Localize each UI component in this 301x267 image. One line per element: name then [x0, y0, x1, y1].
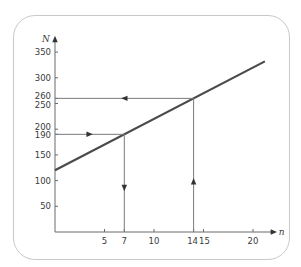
- arrow-right-icon: [86, 132, 92, 137]
- x-tick-label: 5: [102, 236, 107, 246]
- y-tick-label: 300: [35, 73, 51, 83]
- x-tick-label: 15: [199, 236, 210, 246]
- data-line: [55, 61, 265, 170]
- y-tick-label: 50: [40, 201, 51, 211]
- y-tick-label: 260: [35, 91, 51, 101]
- x-axis-arrow-icon: [271, 229, 277, 234]
- x-tick-label: 14: [187, 236, 198, 246]
- x-tick-label: 10: [149, 236, 160, 246]
- y-tick-label: 150: [35, 150, 51, 160]
- arrow-up-icon: [191, 178, 196, 184]
- x-tick-label: 7: [122, 236, 127, 246]
- y-tick-label: 350: [35, 47, 51, 57]
- x-tick-label: 20: [248, 236, 259, 246]
- y-axis-label: N: [41, 34, 51, 44]
- y-tick-label: 200: [35, 122, 51, 132]
- arrow-left-icon: [121, 96, 127, 101]
- line-chart: nN571014152050100150190200250260300350: [0, 0, 301, 267]
- arrow-down-icon: [122, 185, 127, 191]
- y-axis-arrow-icon: [52, 36, 57, 42]
- y-tick-label: 100: [35, 176, 51, 186]
- x-axis-label: n: [279, 227, 285, 237]
